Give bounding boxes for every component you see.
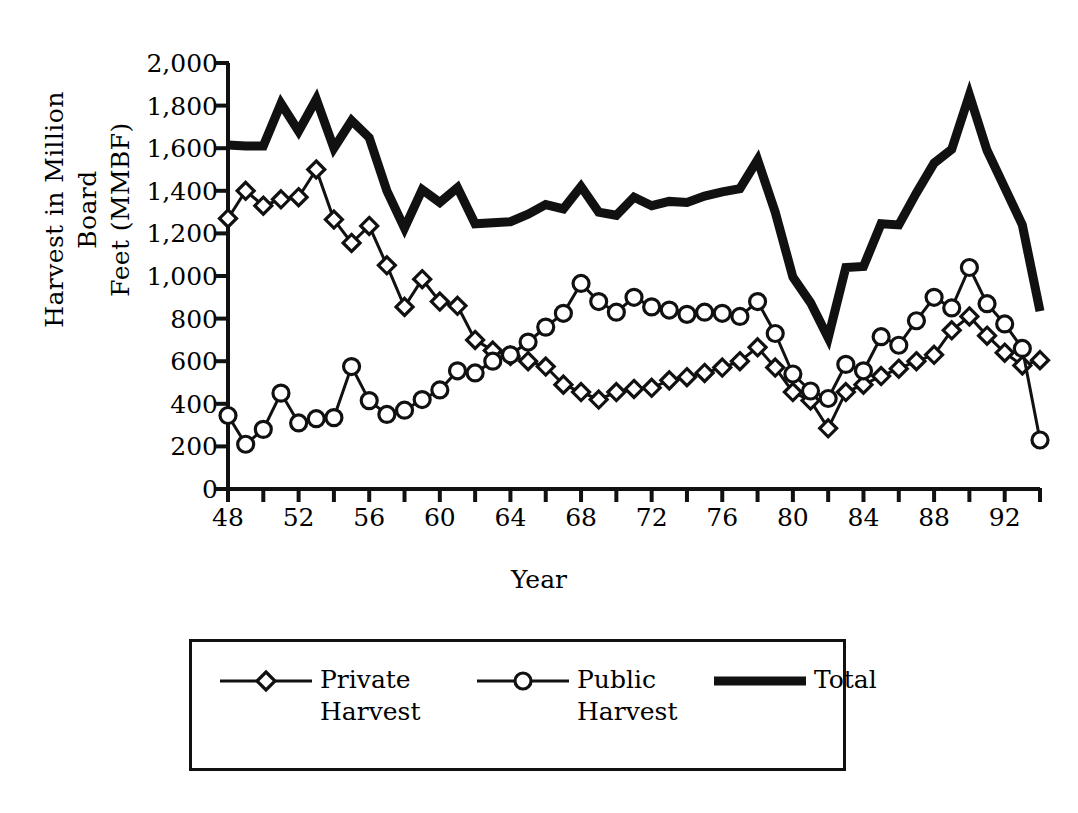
- diamond-marker-icon: [837, 384, 854, 401]
- circle-marker-icon: [555, 305, 571, 321]
- diamond-marker-icon: [396, 298, 413, 315]
- thick-line-icon: [712, 664, 808, 698]
- circle-marker-icon: [414, 392, 430, 408]
- diamond-marker-icon: [608, 384, 625, 401]
- legend-item[interactable]: Public Harvest: [475, 664, 677, 728]
- circle-marker-icon: [397, 402, 413, 418]
- circle-marker-icon: [767, 326, 783, 342]
- x-axis-label: Year: [0, 565, 1078, 594]
- circle-marker-icon: [732, 308, 748, 324]
- legend-label: Private Harvest: [320, 664, 420, 728]
- circle-marker-icon: [449, 363, 465, 379]
- circle-marker-icon: [873, 329, 889, 345]
- circle-marker-icon: [855, 363, 871, 379]
- circle-marker-icon: [785, 366, 801, 382]
- diamond-marker-icon: [220, 210, 237, 227]
- circle-marker-icon: [502, 347, 518, 363]
- circle-marker-icon: [273, 385, 289, 401]
- diamond-marker-icon: [714, 359, 731, 376]
- diamond-marker-icon: [308, 161, 325, 178]
- legend-label: Public Harvest: [577, 664, 677, 728]
- harvest-line-chart: Harvest in Million Board Feet (MMBF) 2,0…: [0, 0, 1078, 813]
- diamond-marker-icon: [678, 369, 695, 386]
- circle-marker-icon: [908, 313, 924, 329]
- circle-marker-icon: [661, 302, 677, 318]
- diamond-marker-icon: [873, 368, 890, 385]
- circle-marker-icon: [220, 408, 236, 424]
- circle-marker-icon: [979, 296, 995, 312]
- diamond-marker-icon: [1032, 352, 1049, 369]
- diamond-marker-icon: [890, 360, 907, 377]
- circle-marker-icon: [961, 259, 977, 275]
- circle-marker-icon: [838, 356, 854, 372]
- circle-marker-icon: [997, 316, 1013, 332]
- diamond-marker-icon: [908, 353, 925, 370]
- circle-marker-icon: [714, 305, 730, 321]
- diamond-marker-icon: [820, 420, 837, 437]
- circle-marker-icon: [591, 294, 607, 310]
- circle-marker-icon: [750, 294, 766, 310]
- circle-marker-icon: [432, 382, 448, 398]
- diamond-marker-icon: [520, 353, 537, 370]
- chart-legend: Private HarvestPublic HarvestTotal: [189, 639, 846, 771]
- legend-item[interactable]: Total: [712, 664, 877, 698]
- legend-item[interactable]: Private Harvest: [218, 664, 420, 728]
- legend-label: Total: [814, 664, 877, 696]
- circle-marker-icon: [944, 300, 960, 316]
- diamond-marker-icon: [573, 384, 590, 401]
- circle-marker-icon: [326, 410, 342, 426]
- circle-marker-icon: [238, 436, 254, 452]
- circle-marker-icon: [679, 306, 695, 322]
- circle-marker-icon: [467, 365, 483, 381]
- circle-marker-icon: [891, 337, 907, 353]
- circle-marker-icon: [926, 289, 942, 305]
- diamond-marker-icon: [467, 331, 484, 348]
- diamond-marker-icon: [626, 380, 643, 397]
- diamond-marker-icon: [378, 257, 395, 274]
- circle-marker-icon: [515, 673, 531, 689]
- circle-marker-icon: [344, 359, 360, 375]
- circle-marker-icon: [626, 289, 642, 305]
- circle-marker-icon: [573, 275, 589, 291]
- diamond-marker-icon: [272, 191, 289, 208]
- circle-marker-icon: [361, 393, 377, 409]
- circle-marker-icon: [255, 421, 271, 437]
- diamond-marker-icon: [257, 672, 275, 690]
- diamond-marker-icon: [643, 379, 660, 396]
- diamond-marker-icon: [218, 664, 314, 698]
- circle-marker-icon: [820, 390, 836, 406]
- circle-marker-icon: [475, 664, 571, 698]
- diamond-marker-icon: [290, 189, 307, 206]
- circle-marker-icon: [803, 383, 819, 399]
- circle-marker-icon: [291, 415, 307, 431]
- diamond-marker-icon: [590, 391, 607, 408]
- circle-marker-icon: [608, 304, 624, 320]
- circle-marker-icon: [538, 319, 554, 335]
- circle-marker-icon: [1014, 340, 1030, 356]
- diamond-marker-icon: [449, 297, 466, 314]
- circle-marker-icon: [520, 334, 536, 350]
- circle-marker-icon: [379, 406, 395, 422]
- diamond-marker-icon: [696, 364, 713, 381]
- diamond-marker-icon: [661, 372, 678, 389]
- circle-marker-icon: [697, 304, 713, 320]
- circle-marker-icon: [308, 411, 324, 427]
- circle-marker-icon: [1032, 432, 1048, 448]
- circle-marker-icon: [644, 299, 660, 315]
- circle-marker-icon: [485, 353, 501, 369]
